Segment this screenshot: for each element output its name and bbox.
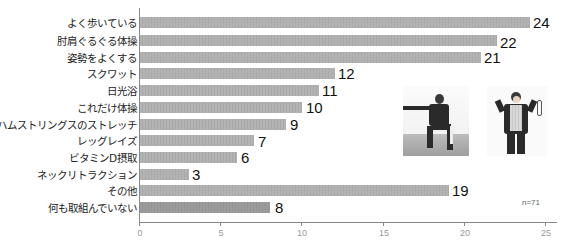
category-label: スクワット [87,68,137,80]
bar [140,135,254,146]
x-tick-label: 20 [460,228,470,238]
x-tick [220,222,221,226]
horizontal-bar-chart: よく歩いている 肘肩ぐるぐる体操 姿勢をよくする スクワット 日光浴 これだけ体… [0,0,577,249]
category-label: 何も取組んでいない [48,202,137,214]
bar [140,185,449,196]
shoulder-exercise-photo [487,86,547,156]
bar [140,152,237,163]
category-label: ビタミンD摂取 [69,152,137,164]
sample-size-annotation: n=71 [522,198,540,207]
value-label: 22 [500,36,517,50]
value-label: 10 [306,101,323,115]
squat-photo [403,86,469,156]
x-tick-label: 15 [379,228,389,238]
bar [140,17,530,28]
value-label: 9 [290,118,298,132]
value-label: 12 [338,67,355,81]
x-tick-label: 0 [137,228,142,238]
category-label: よく歩いている [67,17,137,29]
bar [140,85,319,96]
category-label: 肘肩ぐるぐる体操 [57,35,137,47]
category-label: レッグレイズ [77,135,137,147]
bar [140,102,302,113]
x-tick-label: 25 [541,228,551,238]
x-tick [545,222,546,226]
value-label: 3 [192,168,200,182]
value-label: 11 [322,84,338,98]
value-label: 19 [452,184,469,198]
category-label: 姿勢をよくする [67,52,137,64]
x-tick-label: 5 [218,228,223,238]
value-label: 8 [275,201,283,215]
x-tick [139,222,140,226]
x-tick [301,222,302,226]
bar [140,169,189,180]
bar [140,52,481,63]
category-label: ハムストリングスのストレッチ [0,119,137,131]
x-tick [383,222,384,226]
x-tick-label: 10 [297,228,307,238]
category-label: その他 [107,185,137,197]
value-label: 24 [533,16,550,30]
category-label: これだけ体操 [77,102,137,114]
bar [140,202,270,213]
x-tick [464,222,465,226]
bar [140,119,286,130]
value-label: 6 [241,151,249,165]
value-label: 21 [484,51,501,65]
bar [140,35,497,46]
bar [140,68,335,79]
x-axis-line [139,222,557,223]
category-label: 日光浴 [107,85,137,97]
category-label: ネックリトラクション [37,169,137,181]
value-label: 7 [258,135,266,149]
